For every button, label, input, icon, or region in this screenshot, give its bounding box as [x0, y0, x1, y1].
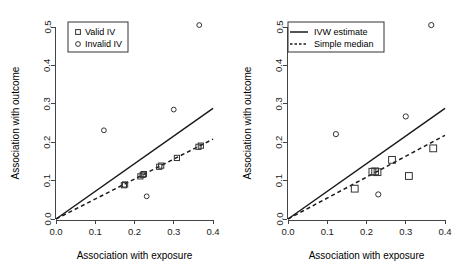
x-tick-label: 0.4: [438, 226, 451, 237]
data-point-circle: [171, 107, 176, 112]
y-tick-label: 0.2: [274, 136, 285, 149]
data-point-circle: [429, 22, 434, 27]
x-tick-label: 0.1: [321, 226, 334, 237]
legend-left: Valid IVInvalid IV: [68, 22, 128, 52]
fit-line-solid: [288, 108, 445, 219]
y-tick-label: 0.0: [274, 212, 285, 225]
data-point-square: [405, 173, 412, 180]
axes-right: 0.00.10.20.30.40.00.10.20.30.40.5Associa…: [242, 20, 452, 261]
x-tick-label: 0.2: [360, 226, 373, 237]
y-tick-label: 0.3: [42, 97, 53, 110]
fit-lines-left: [56, 108, 213, 219]
data-point-circle: [403, 114, 408, 119]
fit-line-dashed: [288, 135, 445, 219]
y-tick-label: 0.1: [42, 174, 53, 187]
data-point-circle: [144, 194, 149, 199]
y-tick-label: 0.4: [42, 59, 53, 72]
data-point-circle: [333, 132, 338, 137]
x-axis-title: Association with exposure: [309, 250, 425, 261]
fit-line-dashed: [56, 139, 213, 219]
data-point-circle: [101, 128, 106, 133]
legend-right: IVW estimateSimple median: [288, 22, 384, 52]
fit-line-solid: [56, 108, 213, 219]
legend-label: Invalid IV: [85, 39, 122, 49]
y-tick-label: 0.1: [274, 174, 285, 187]
x-tick-label: 0.0: [49, 226, 62, 237]
data-point-circle: [376, 192, 381, 197]
x-tick-label: 0.3: [167, 226, 180, 237]
y-tick-label: 0.5: [42, 20, 53, 33]
plot-area-right: 0.00.10.20.30.40.00.10.20.30.40.5Associa…: [232, 0, 463, 278]
y-tick-label: 0.3: [274, 97, 285, 110]
data-point-square: [369, 168, 376, 175]
legend-label: IVW estimate: [314, 27, 368, 37]
y-axis-title: Association with outcome: [10, 66, 21, 179]
scatter-panel-left: 0.00.10.20.30.40.00.10.20.30.40.5Associa…: [0, 0, 231, 278]
y-axis-title: Association with outcome: [242, 66, 253, 179]
x-tick-label: 0.0: [281, 226, 294, 237]
series-valid-iv: [351, 145, 436, 192]
x-tick-label: 0.2: [128, 226, 141, 237]
data-point-circle: [197, 23, 202, 28]
x-tick-label: 0.1: [89, 226, 102, 237]
y-tick-label: 0.5: [274, 20, 285, 33]
scatter-panel-right: 0.00.10.20.30.40.00.10.20.30.40.5Associa…: [232, 0, 463, 278]
y-tick-label: 0.0: [42, 212, 53, 225]
data-point-square: [351, 185, 358, 192]
fit-lines-right: [288, 108, 445, 219]
data-point-square: [430, 145, 437, 152]
x-axis-title: Association with exposure: [77, 250, 193, 261]
legend-label: Simple median: [314, 39, 374, 49]
legend-label: Valid IV: [85, 27, 115, 37]
axes-left: 0.00.10.20.30.40.00.10.20.30.40.5Associa…: [10, 20, 220, 261]
mendelian-randomization-figure: 0.00.10.20.30.40.00.10.20.30.40.5Associa…: [0, 0, 463, 278]
y-tick-label: 0.4: [274, 59, 285, 72]
y-tick-label: 0.2: [42, 136, 53, 149]
plot-area-left: 0.00.10.20.30.40.00.10.20.30.40.5Associa…: [0, 0, 231, 278]
x-tick-label: 0.4: [206, 226, 219, 237]
x-tick-label: 0.3: [399, 226, 412, 237]
